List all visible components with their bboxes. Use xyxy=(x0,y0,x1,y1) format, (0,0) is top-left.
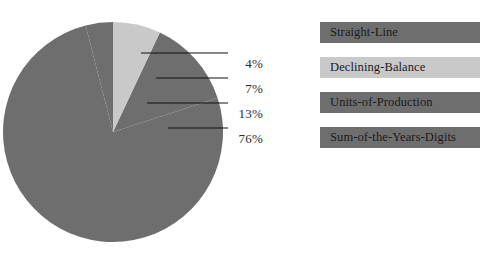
legend-label-units-of-production: Units-of-Production xyxy=(320,95,433,110)
legend-label-sum-of-the-years-digits: Sum-of-the-Years-Digits xyxy=(320,130,456,145)
legend-label-declining-balance: Declining-Balance xyxy=(320,60,425,75)
legend-item-straight-line[interactable]: Straight-Line xyxy=(320,22,480,43)
legend-item-declining-balance[interactable]: Declining-Balance xyxy=(320,57,480,78)
legend-label-straight-line: Straight-Line xyxy=(320,25,398,40)
pie-svg xyxy=(0,0,280,254)
pie-value-label-declining-balance: 7% xyxy=(217,82,263,96)
pie-chart-figure: 4% 7% 13% 76% Straight-Line Declining-Ba… xyxy=(0,0,489,254)
pie-value-label-units-of-production: 13% xyxy=(217,107,263,121)
chart-legend: Straight-Line Declining-Balance Units-of… xyxy=(320,0,489,254)
pie-plot-area: 4% 7% 13% 76% xyxy=(0,0,280,254)
legend-item-sum-of-the-years-digits[interactable]: Sum-of-the-Years-Digits xyxy=(320,127,480,148)
pie-value-label-straight-line: 4% xyxy=(217,57,263,71)
pie-value-label-sum-of-the-years-digits: 76% xyxy=(217,132,263,146)
legend-item-units-of-production[interactable]: Units-of-Production xyxy=(320,92,480,113)
